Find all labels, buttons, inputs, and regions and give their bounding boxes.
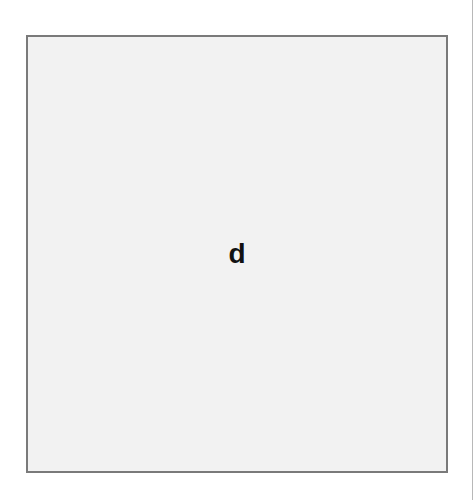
card-letter-label: d [228, 240, 245, 268]
right-edge-divider [472, 0, 473, 500]
letter-card[interactable]: d [26, 35, 448, 473]
